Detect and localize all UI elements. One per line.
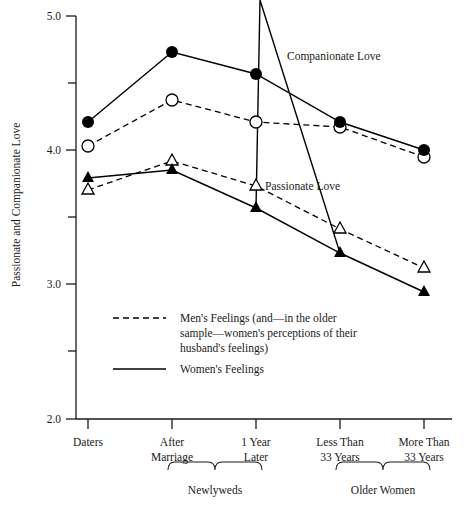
x-axis-tick-labels: Daters After Marriage 1 Year Later Less … [73,436,450,464]
y-axis-ticks [66,16,76,419]
x-tick-1year-l1: 1 Year [241,436,271,448]
legend-label-men-1: Men's Feelings (and—in the older [180,312,337,325]
series-companionate-women [88,52,424,150]
annotation-passionate-love: Passionate Love [265,180,340,192]
y-tick-3: 3.0 [47,278,62,290]
series-passionate-women [88,0,424,292]
x-tick-after-l1: After [160,436,184,448]
y-tick-5: 5.0 [47,10,62,22]
x-axis-ticks [88,419,424,429]
annotation-companionate-love: Companionate Love [287,50,381,63]
x-tick-daters-l1: Daters [73,436,104,448]
chart-figure: Passionate and Companionate Love 5.0 4.0… [0,0,464,509]
x-tick-morethan-l2: 33 Years [404,451,444,463]
x-tick-1year-l2: Later [244,451,268,463]
y-axis-title: Passionate and Companionate Love [10,123,23,287]
chart-canvas: Passionate and Companionate Love 5.0 4.0… [0,0,464,509]
y-tick-4: 4.0 [47,144,62,156]
group-label-newlyweds: Newlyweds [188,484,243,497]
x-tick-morethan-l1: More Than [398,436,449,448]
group-bracket-newlyweds [168,462,262,470]
axis-lines [76,16,452,419]
y-tick-2: 2.0 [47,413,62,425]
markers-companionate-women [82,46,430,156]
legend-label-men-3: husband's feelings) [180,342,268,355]
y-axis-tick-labels: 5.0 4.0 3.0 2.0 [47,10,62,425]
markers-companionate-men [82,94,430,163]
legend-label-women: Women's Feelings [180,363,264,376]
legend-label-men-2: sample—women's perceptions of their [180,327,357,340]
group-label-older-women: Older Women [351,484,416,496]
x-tick-lessthan-l1: Less Than [316,436,364,448]
group-bracket-older-women [336,462,430,470]
x-tick-lessthan-l2: 33 Years [320,451,360,463]
legend: Men's Feelings (and—in the older sample—… [113,312,357,376]
